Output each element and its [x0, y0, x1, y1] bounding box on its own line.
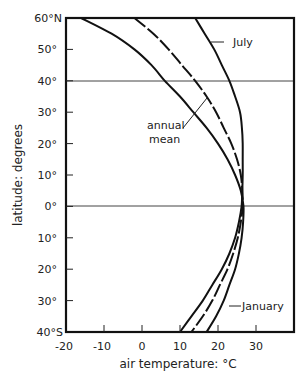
- y-tick-label: 30°: [38, 106, 58, 119]
- y-axis: 60°N 50° 40° 30° 20° 10° 0° 10° 20° 30° …: [11, 12, 63, 339]
- x-tick-label: -10: [93, 340, 111, 353]
- y-tick-label: 20°: [38, 138, 58, 151]
- x-tick-label: -20: [55, 340, 73, 353]
- y-tick-label: 40°S: [37, 326, 63, 339]
- annotation-january: January: [229, 300, 284, 313]
- x-tick-label: 0: [139, 340, 146, 353]
- y-tick-label: 60°N: [34, 12, 62, 25]
- y-axis-title: latitude: degrees: [11, 124, 25, 226]
- x-axis-title: air temperature: °C: [119, 357, 236, 371]
- label-july: July: [232, 36, 253, 49]
- label-mean: mean: [149, 133, 180, 146]
- label-january: January: [241, 300, 284, 313]
- x-tick-label: 10: [173, 340, 187, 353]
- x-tick-label: 20: [211, 340, 225, 353]
- y-tick-label: 0°: [45, 200, 58, 213]
- series-july: [180, 18, 243, 332]
- y-tick-label: 40°: [38, 75, 58, 88]
- x-tick-label: 30: [249, 340, 263, 353]
- x-axis: -20 -10 0 10 20 30 air temperature: °C: [55, 340, 263, 371]
- label-annual: annual: [147, 119, 184, 132]
- chart-canvas: -20 -10 0 10 20 30 air temperature: °C 6…: [0, 0, 308, 376]
- y-tick-label: 20°: [38, 263, 58, 276]
- plot-frame: [66, 18, 294, 332]
- annotation-annual-mean: annual mean: [147, 98, 207, 146]
- y-tick-label: 10°: [38, 169, 58, 182]
- annotation-july: July: [211, 36, 253, 49]
- y-tick-label: 50°: [38, 43, 58, 56]
- y-tick-label: 10°: [38, 232, 58, 245]
- series-group: [81, 18, 243, 332]
- y-tick-label: 30°: [38, 295, 58, 308]
